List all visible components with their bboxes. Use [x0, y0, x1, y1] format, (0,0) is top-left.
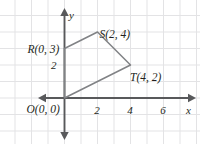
y-tick-label-2: 2 [51, 60, 57, 71]
y-axis-arrow-up [60, 8, 68, 16]
x-tick-label-6: 6 [160, 105, 166, 116]
vertex-label-S: S(2, 4) [100, 29, 131, 41]
vertex-label-O: O(0, 0) [27, 104, 60, 116]
x-tick-label-4: 4 [127, 105, 133, 116]
x-tick-label-2: 2 [94, 105, 100, 116]
x-axis-name: x [186, 105, 191, 116]
y-axis-arrow-down [60, 132, 68, 140]
x-axis-arrow-right [188, 94, 196, 102]
coordinate-plane-figure: R(0, 3) S(2, 4) T(4, 2) O(0, 0) 2 4 6 2 … [0, 0, 200, 144]
x-axis-arrow-left [38, 94, 46, 102]
gridlines [0, 0, 200, 144]
y-axis-name: y [69, 10, 74, 21]
vertex-label-T: T(4, 2) [130, 72, 161, 84]
vertex-label-R: R(0, 3) [28, 44, 60, 56]
plot-canvas [0, 0, 200, 144]
